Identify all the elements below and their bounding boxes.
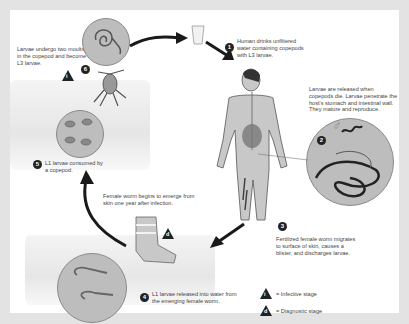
step-1-badge: 1 <box>225 43 234 52</box>
infective-stage-marker: i <box>62 70 74 81</box>
step-5-badge: 5 <box>33 160 42 169</box>
copepods-icon <box>56 110 102 156</box>
l1-larvae-icon <box>57 253 125 321</box>
arrow-copepod-to-water <box>130 30 190 50</box>
legend-diagnostic-label: = Diagnostic stage <box>276 308 322 315</box>
diagram-panel: Larvae undergo two moults in the copepod… <box>10 10 399 313</box>
step-6-text: Larvae undergo two moults in the copepod… <box>17 46 87 66</box>
step-3-badge: 3 <box>278 222 287 231</box>
adult-worms-icon <box>306 118 392 204</box>
step-4-badge: 4 <box>140 293 149 302</box>
human-figure <box>215 70 305 230</box>
step-6-badge: 6 <box>81 65 90 74</box>
copepod-icon <box>90 68 130 108</box>
legend-infective-icon: i <box>260 288 272 299</box>
step-1-text: Human drinks unfiltered water containing… <box>237 38 307 58</box>
step-2-text: Larvae are released when copepods die. L… <box>309 86 399 113</box>
diagnostic-stage-marker: d <box>162 228 174 239</box>
arrow-water-to-copepod <box>72 170 132 250</box>
foot-with-blister-icon <box>130 215 180 265</box>
step-3-text: Fertilized female worm migrates to surfa… <box>276 236 361 256</box>
legend-infective-label: = Infective stage <box>276 291 317 298</box>
step-4-text: L1 larvae released into water from the e… <box>152 291 242 305</box>
water-glass-icon <box>192 26 204 44</box>
l3-larva-icon <box>82 18 128 64</box>
connector-line <box>258 154 308 164</box>
legend-diagnostic-icon: d <box>260 305 272 316</box>
arrow-leg-to-water <box>208 222 248 248</box>
